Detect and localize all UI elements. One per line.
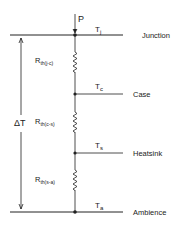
resistor-sa-label: Rth(s-a)	[35, 175, 55, 185]
case-temp: Tc	[95, 82, 103, 92]
power-arrowhead-icon	[73, 29, 77, 33]
heatsink-label: Heatsink	[133, 149, 162, 158]
thermal-resistance-diagram: P Tj Junction Rth(j-c) Tc Case Rth(c-s) …	[0, 0, 179, 225]
heatsink-temp: Ts	[95, 141, 103, 151]
junction-label: Junction	[142, 31, 170, 40]
resistor-cs-icon	[73, 112, 77, 133]
resistor-jc-icon	[73, 52, 77, 73]
resistor-jc-label: Rth(j-c)	[35, 56, 54, 66]
case-label: Case	[133, 90, 151, 99]
ambience-node	[73, 210, 77, 214]
delta-t-label: ΔT	[14, 118, 26, 128]
resistor-sa-icon	[73, 170, 77, 191]
ambience-label: Ambience	[133, 208, 166, 217]
ambience-temp: Ta	[95, 201, 104, 211]
junction-temp: Tj	[95, 25, 101, 35]
power-label: P	[78, 14, 84, 24]
resistor-cs-label: Rth(c-s)	[35, 117, 55, 127]
